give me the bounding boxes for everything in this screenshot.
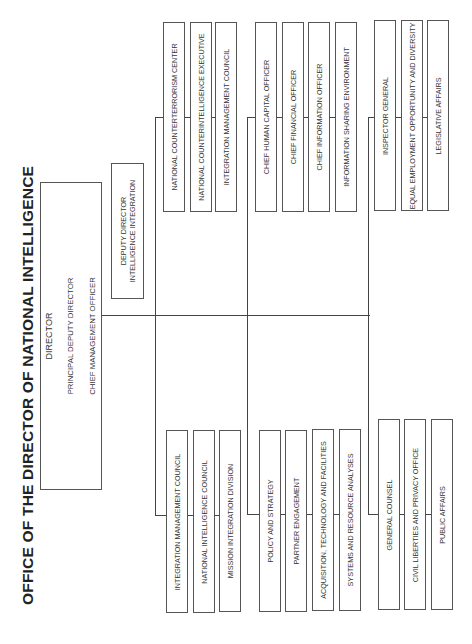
box-civil-liberties-privacy-office: CIVIL LIBERTIES AND PRIVACY OFFICE bbox=[404, 419, 426, 610]
box-integration-management-council-top: INTEGRATION MANAGEMENT COUNCIL bbox=[215, 22, 237, 212]
box-mission-integration-division: MISSION INTEGRATION DIVISION bbox=[219, 430, 241, 612]
box-chief-financial-officer: CHIEF FINANCIAL OFFICER bbox=[282, 22, 304, 212]
connector-left-spine bbox=[155, 117, 156, 516]
connector-director-deputy bbox=[102, 315, 370, 316]
box-chief-information-officer: CHIEF INFORMATION OFFICER bbox=[308, 22, 330, 212]
director-box: DIRECTOR PRINCIPAL DEPUTY DIRECTOR CHIEF… bbox=[40, 182, 102, 490]
connector-right-spine bbox=[368, 117, 369, 515]
box-information-sharing-environment: INFORMATION SHARING ENVIRONMENT bbox=[335, 22, 357, 212]
box-national-counterintelligence-executive: NATIONAL COUNTERINTELLIGENCE EXECUTIVE bbox=[190, 22, 212, 212]
box-inspector-general: INSPECTOR GENERAL bbox=[374, 20, 396, 211]
box-national-intelligence-council: NATIONAL INTELLIGENCE COUNCIL bbox=[193, 430, 215, 613]
page-title: OFFICE OF THE DIRECTOR OF NATIONAL INTEL… bbox=[16, 125, 40, 605]
box-acquisition-technology-facilities: ACQUISITION, TECHNOLOGY AND FACILITIES bbox=[312, 429, 334, 611]
box-policy-and-strategy: POLICY AND STRATEGY bbox=[259, 430, 281, 612]
box-general-counsel: GENERAL COUNSEL bbox=[378, 419, 400, 610]
box-public-affairs: PUBLIC AFFAIRS bbox=[431, 419, 453, 610]
box-partner-engagement: PARTNER ENGAGEMENT bbox=[285, 430, 307, 612]
box-integration-management-council-bottom: INTEGRATION MANAGEMENT COUNCIL bbox=[166, 430, 188, 613]
connector-center-spine bbox=[247, 117, 248, 515]
deputy-director-box: DEPUTY DIRECTOR INTELLIGENCE INTEGRATION bbox=[111, 163, 144, 299]
box-chief-human-capital-officer: CHIEF HUMAN CAPITAL OFFICER bbox=[255, 22, 277, 212]
box-legislative-affairs: LEGISLATIVE AFFAIRS bbox=[427, 20, 449, 211]
intelligence-integration-title: INTELLIGENCE INTEGRATION bbox=[128, 180, 137, 283]
box-equal-employment-opportunity: EQUAL EMPLOYMENT OPPORTUNITY AND DIVERSI… bbox=[401, 20, 423, 211]
box-national-counterterrorism-center: NATIONAL COUNTERTERRORISM CENTER bbox=[163, 22, 185, 212]
principal-deputy-director-title: PRINCIPAL DEPUTY DIRECTOR bbox=[60, 277, 82, 395]
chief-management-officer-title: CHIEF MANAGEMENT OFFICER bbox=[82, 277, 104, 395]
box-systems-and-resource-analyses: SYSTEMS AND RESOURCE ANALYSES bbox=[339, 429, 361, 611]
director-title: DIRECTOR bbox=[38, 277, 60, 395]
deputy-director-title: DEPUTY DIRECTOR bbox=[119, 180, 128, 283]
